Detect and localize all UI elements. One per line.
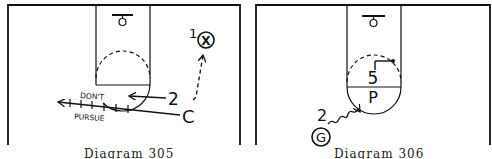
guard-marker: G [312,128,330,146]
player-2-label: 2 [168,89,179,109]
post-label: P [368,88,378,107]
coach-label: C [182,106,195,127]
dribble-path-arrow [328,109,360,124]
basket-icon [112,15,133,26]
diagram-305: X 1 2 C DON'T PURSUE [8,5,240,145]
player-2-cut-arrow [129,96,166,98]
guard-letter: G [316,130,326,145]
pass-arrow [193,55,203,100]
pursue-label: PURSUE [74,112,105,123]
court-boundary [8,5,240,145]
caption-diagram-305: Diagram 305 [84,147,174,159]
dont-label: DON'T [80,91,105,102]
defender-x-symbol: X [201,34,211,48]
diagram-canvas: X 1 2 C DON'T PURSUE [0,0,492,159]
guard-number-label: 2 [317,106,327,125]
defender-number-label: 1 [189,26,197,41]
basket-icon [362,16,385,27]
defender-x-marker: X [198,32,214,48]
caption-diagram-306: Diagram 306 [334,147,424,159]
post-number-label: 5 [368,68,379,88]
free-throw-circle-dashed [96,51,150,78]
diagram-306: 5 P 2 G [256,5,490,146]
